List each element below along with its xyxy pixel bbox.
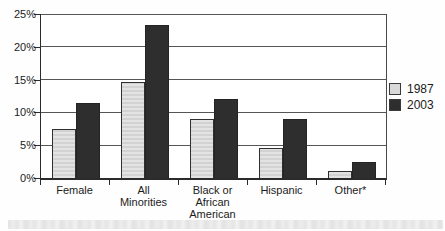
y-tick-label: 0% xyxy=(2,172,36,184)
bar-1987 xyxy=(121,82,145,178)
bar-1987 xyxy=(52,129,76,178)
y-tick-label: 25% xyxy=(2,8,36,20)
legend-swatch-icon xyxy=(389,99,401,111)
x-tick-label: Black or African American xyxy=(178,184,247,220)
legend-swatch-icon xyxy=(389,83,401,95)
y-tick-label: 15% xyxy=(2,74,36,86)
x-tick-label: Other* xyxy=(316,184,385,196)
bar-2003 xyxy=(214,99,238,178)
bar-group-other xyxy=(317,14,386,178)
bar-group-black-or-african-american xyxy=(179,14,248,178)
x-tick-label: All Minorities xyxy=(109,184,178,208)
x-tick-label: Hispanic xyxy=(247,184,316,196)
y-tick-label: 20% xyxy=(2,41,36,53)
y-tick-label: 5% xyxy=(2,139,36,151)
bar-group-female xyxy=(41,14,110,178)
bar-chart-figure: 0%5%10%15%20%25% FemaleAll MinoritiesBla… xyxy=(0,0,445,231)
plot-area xyxy=(40,14,387,180)
bar-2003 xyxy=(76,103,100,178)
legend: 19872003 xyxy=(389,83,434,115)
bar-1987 xyxy=(259,148,283,178)
bar-group-hispanic xyxy=(248,14,317,178)
bar-2003 xyxy=(352,162,376,178)
legend-item-2003: 2003 xyxy=(389,99,434,111)
y-tick-label: 10% xyxy=(2,106,36,118)
bar-group-all-minorities xyxy=(110,14,179,178)
x-tick xyxy=(385,180,386,185)
legend-label: 1987 xyxy=(407,83,434,95)
legend-item-1987: 1987 xyxy=(389,83,434,95)
legend-label: 2003 xyxy=(407,99,434,111)
x-tick-label: Female xyxy=(40,184,109,196)
bar-1987 xyxy=(190,119,214,178)
bar-2003 xyxy=(145,25,169,179)
bar-1987 xyxy=(328,171,352,178)
bar-2003 xyxy=(283,119,307,178)
scan-artifact-strip xyxy=(8,220,443,229)
